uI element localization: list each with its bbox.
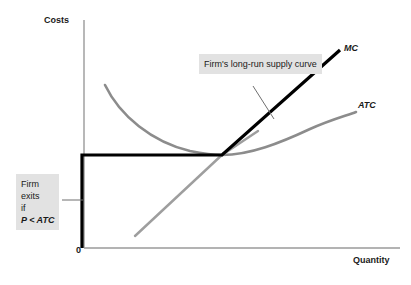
exit-annotation-line-1: Firm — [21, 178, 54, 190]
mc-curve-label: MC — [344, 44, 358, 53]
origin-label: 0 — [76, 246, 81, 255]
exit-annotation-line-2: exits — [21, 190, 54, 202]
atc-curve-label: ATC — [358, 101, 376, 110]
supply-note-leader-line — [253, 86, 274, 119]
supply-annotation-line-1: Firm's long-run — [204, 59, 264, 69]
exit-annotation-line-4: P < ATC — [21, 214, 54, 226]
supply-annotation-line-2: supply curve — [266, 59, 317, 69]
long-run-supply-curve — [82, 50, 340, 248]
y-axis-label: Costs — [44, 16, 69, 25]
atc-curve — [105, 85, 356, 155]
mc-curve-lower-gray — [135, 153, 224, 236]
exit-annotation-line-3: if — [21, 202, 54, 214]
supply-curve-annotation: Firm's long-run supply curve — [199, 54, 322, 74]
exit-condition-annotation: Firm exits if P < ATC — [16, 174, 59, 230]
x-axis-label: Quantity — [353, 256, 390, 265]
figure-canvas: Costs Quantity 0 MC ATC Firm's long-run … — [0, 0, 411, 285]
